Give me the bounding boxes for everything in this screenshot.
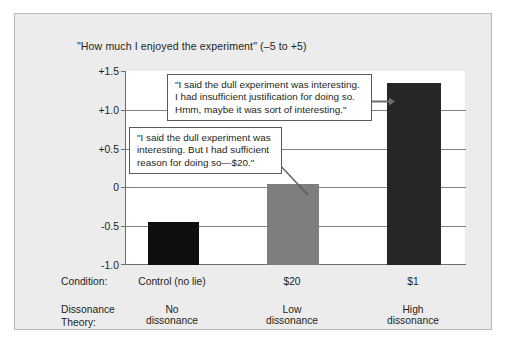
theory-label-no-dissonance: No dissonance <box>146 304 198 326</box>
callout-high-line3: Hmm, maybe it was sort of interesting." <box>175 104 365 116</box>
callout-low-line1: "I said the dull experiment was <box>137 132 275 144</box>
theory-label-line1: High <box>402 304 423 315</box>
callout-high-arrow-icon <box>372 97 395 106</box>
y-tick-label: +1.0 <box>98 104 119 115</box>
y-tick-mark <box>121 149 126 150</box>
y-tick-label: 0 <box>113 182 119 193</box>
callout-low-line3: reason for doing so—$20." <box>137 157 275 169</box>
y-tick-label: -0.5 <box>101 221 119 232</box>
theory-label-line1: No <box>165 304 178 315</box>
theory-label-line2: dissonance <box>387 315 439 326</box>
figure-frame: "How much I enjoyed the experiment" (–5 … <box>14 13 492 330</box>
callout-high-line2: I had insufficient justification for doi… <box>175 91 365 103</box>
condition-label-one: $1 <box>407 276 418 287</box>
bar-one-dollar[interactable] <box>387 83 441 265</box>
theory-label-low-dissonance: Low dissonance <box>266 304 318 326</box>
theory-row-key-line2: Theory: <box>61 317 96 328</box>
callout-low-leader-line <box>277 162 311 198</box>
callout-low-line2: interesting. But I had sufficient <box>137 144 275 156</box>
theory-label-high-dissonance: High dissonance <box>387 304 439 326</box>
callout-high-line1: "I said the dull experiment was interest… <box>175 79 365 91</box>
callout-low-dissonance: "I said the dull experiment was interest… <box>129 127 282 174</box>
chart-title: "How much I enjoyed the experiment" (–5 … <box>77 40 307 52</box>
y-tick-label: +0.5 <box>98 143 119 154</box>
bar-control-no-lie[interactable] <box>148 222 199 265</box>
theory-label-line2: dissonance <box>266 315 318 326</box>
condition-label-control: Control (no lie) <box>138 276 206 287</box>
y-tick-label: +1.5 <box>98 66 119 77</box>
y-tick-label: -1.0 <box>101 260 119 271</box>
condition-row-key: Condition: <box>61 276 107 287</box>
theory-label-line2: dissonance <box>146 315 198 326</box>
theory-label-line1: Low <box>283 304 302 315</box>
y-tick-mark <box>121 110 126 111</box>
y-tick-mark <box>121 71 126 72</box>
y-tick-mark <box>121 226 126 227</box>
y-tick-mark <box>121 264 126 265</box>
theory-row-key-line1: Dissonance <box>61 304 115 315</box>
y-axis-labels: +1.5 +1.0 +0.5 0 -0.5 -1.0 <box>70 71 119 265</box>
y-tick-mark <box>121 187 126 188</box>
condition-label-twenty: $20 <box>283 276 300 287</box>
callout-high-dissonance: "I said the dull experiment was interest… <box>167 74 372 121</box>
